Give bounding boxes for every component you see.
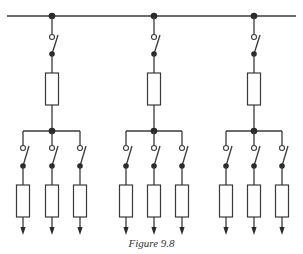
feeder-center-branch-2-arrow-down-icon — [151, 227, 156, 235]
feeder-left-branch-1-arrow-down-icon — [20, 227, 25, 235]
feeder-right-branch-3-open-contact-icon — [280, 146, 285, 151]
figure-caption: Figure 9.8 — [0, 237, 303, 249]
feeder-center-branch-2-impedance-box — [148, 185, 161, 217]
feeder-right-branch-2-open-contact-icon — [252, 146, 257, 151]
feeder-center-open-contact-icon — [152, 35, 157, 40]
feeder-center-branch-3-arrow-down-icon — [179, 227, 184, 235]
feeder-right-branch-3-arrow-down-icon — [279, 227, 284, 235]
feeder-left-branch-2-impedance-box — [46, 185, 59, 217]
feeder-right-branch-2-arrow-down-icon — [251, 227, 256, 235]
feeder-center-branch-1-open-contact-icon — [124, 146, 129, 151]
feeder-right-branch-1-open-contact-icon — [224, 146, 229, 151]
feeder-left-branch-3-open-contact-icon — [78, 146, 83, 151]
feeder-center-branch-2-open-contact-icon — [152, 146, 157, 151]
feeder-left-open-contact-icon — [50, 35, 55, 40]
feeder-left-impedance-box — [46, 73, 59, 105]
feeder-left-branch-3-arrow-down-icon — [77, 227, 82, 235]
feeder-right-branch-1-impedance-box — [220, 185, 233, 217]
feeder-left-branch-2-open-contact-icon — [50, 146, 55, 151]
feeder-right-branch-1-arrow-down-icon — [223, 227, 228, 235]
feeder-left-branch-3-impedance-box — [74, 185, 87, 217]
feeder-center-branch-1-arrow-down-icon — [123, 227, 128, 235]
feeder-right-branch-3-impedance-box — [276, 185, 289, 217]
feeder-center-branch-1-impedance-box — [120, 185, 133, 217]
single-line-diagram — [0, 0, 303, 254]
feeder-left-branch-1-impedance-box — [17, 185, 30, 217]
feeder-right-branch-2-impedance-box — [248, 185, 261, 217]
feeder-center-branch-3-open-contact-icon — [180, 146, 185, 151]
feeder-right-impedance-box — [248, 73, 261, 105]
feeder-left-branch-1-open-contact-icon — [21, 146, 26, 151]
feeder-left-branch-2-arrow-down-icon — [49, 227, 54, 235]
feeder-right-open-contact-icon — [252, 35, 257, 40]
feeder-center-branch-3-impedance-box — [176, 185, 189, 217]
feeder-center-impedance-box — [148, 73, 161, 105]
